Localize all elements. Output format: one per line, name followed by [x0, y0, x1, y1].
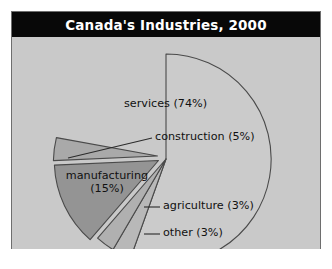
chart-title-bar: Canada's Industries, 2000	[12, 12, 320, 37]
pie-label-services: services (74%)	[124, 98, 207, 111]
figure-root: Canada's Industries, 2000	[0, 0, 332, 269]
pie-label-manufacturing-line1: manufacturing	[66, 169, 148, 182]
pie-slice-services[interactable]	[131, 54, 272, 249]
chart-title: Canada's Industries, 2000	[65, 17, 266, 33]
chart-panel: Canada's Industries, 2000	[11, 11, 321, 249]
pie-label-manufacturing: manufacturing (15%)	[59, 170, 155, 195]
pie-label-agriculture: agriculture (3%)	[163, 200, 254, 213]
pie-label-construction: construction (5%)	[155, 131, 255, 144]
plot-area: services (74%) construction (5%) manufac…	[12, 37, 320, 249]
pie-label-manufacturing-line2: (15%)	[90, 182, 124, 195]
pie-label-other: other (3%)	[163, 227, 223, 240]
